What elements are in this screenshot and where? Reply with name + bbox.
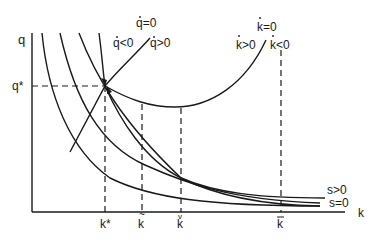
k-dot-zero-label: k=0 [257,20,277,34]
k-star-label: k* [100,217,111,231]
x-axis-label: k [358,206,365,220]
s-zero-upper-curve [60,33,320,203]
k-dot-right-label: k<0 [270,38,290,52]
q-dot-zero-label: q=0 [136,16,157,30]
k-dot-left-dot [238,35,240,37]
k-tilde-mark: ~ [139,209,145,220]
q-star-label: q* [12,79,24,93]
phase-diagram: q k q* k* k ~ k v k q=0 q<0 q>0 k=0 k>0 … [0,0,387,242]
y-axis-label: q [18,32,25,47]
s-positive-label: s>0 [327,183,347,197]
s-zero-label: s=0 [329,196,349,210]
q-dot-dot [139,16,141,18]
q-dot-left-dot [116,36,118,38]
k-dot-right-dot [272,35,274,37]
k-dot-dot [259,17,261,19]
q-dot-right-dot [153,36,155,38]
k-dot-left-label: k>0 [236,38,256,52]
k-check-mark: v [178,212,182,221]
q-dot-left-label: q<0 [113,36,134,50]
s-positive-curve [79,33,325,198]
k-bar-label: k [277,217,284,231]
q-dot-right-label: q>0 [150,36,171,50]
